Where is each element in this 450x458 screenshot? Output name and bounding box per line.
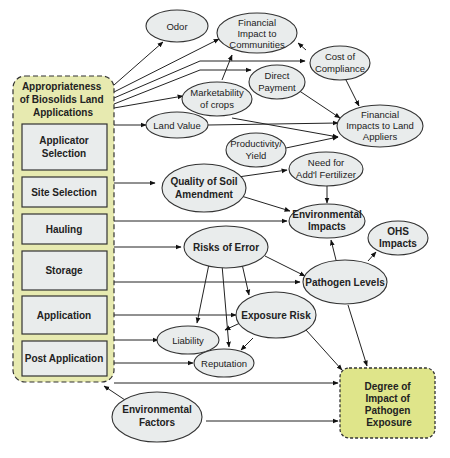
stage-applicator-selection[interactable]: ApplicatorSelection	[22, 124, 107, 170]
node-liability[interactable]: Liability	[157, 326, 219, 354]
node-odor[interactable]: Odor	[146, 10, 208, 42]
node-land-value[interactable]: Land Value	[146, 112, 208, 138]
node-marketability-of-crops[interactable]: Marketabilityof crops	[182, 82, 252, 116]
svg-text:Reputation: Reputation	[201, 358, 247, 369]
node-quality-of-soil-amendment[interactable]: Quality of SoilAmendment	[162, 164, 246, 212]
svg-text:Hauling: Hauling	[46, 224, 83, 235]
node-environmental-impacts[interactable]: EnvironmentalImpacts	[289, 204, 365, 238]
svg-text:Pathogen Levels: Pathogen Levels	[305, 277, 385, 288]
node-need-for-fertilizer[interactable]: Need forAdd'l Fertilizer	[289, 152, 363, 186]
svg-text:Post Application: Post Application	[25, 353, 104, 364]
node-ohs-impacts[interactable]: OHSImpacts	[368, 221, 428, 255]
node-productivity-yield[interactable]: Productivity/Yield	[226, 133, 286, 167]
node-direct-payment[interactable]: DirectPayment	[249, 65, 305, 99]
node-cost-of-compliance[interactable]: Cost ofCompliance	[310, 46, 370, 80]
stage-application[interactable]: Application	[22, 296, 107, 334]
stage-post-application[interactable]: Post Application	[22, 341, 107, 376]
biosolids-causal-diagram: Appropriateness of Biosolids Land Applic…	[0, 0, 450, 458]
node-financial-impacts-land-appliers[interactable]: FinancialImpacts to LandAppliers	[337, 105, 423, 147]
svg-text:Liability: Liability	[172, 335, 204, 346]
svg-text:Application: Application	[37, 310, 91, 321]
node-risks-of-error[interactable]: Risks of Error	[184, 226, 268, 268]
svg-text:Land Value: Land Value	[153, 120, 200, 131]
node-pathogen-levels[interactable]: Pathogen Levels	[303, 260, 387, 304]
svg-text:Site Selection: Site Selection	[31, 187, 97, 198]
svg-text:Degree of Impact of: Degree of Impact of Pathogen Exposure	[365, 381, 414, 428]
node-environmental-factors[interactable]: EnvironmentalFactors	[112, 392, 202, 442]
stage-site-selection[interactable]: Site Selection	[22, 177, 107, 207]
appropriateness-container: Appropriateness of Biosolids Land Applic…	[13, 76, 114, 382]
svg-text:Exposure Risk: Exposure Risk	[241, 310, 311, 321]
outcome-degree-of-impact[interactable]: Degree of Impact of Pathogen Exposure	[340, 368, 435, 438]
node-exposure-risk[interactable]: Exposure Risk	[236, 292, 316, 338]
node-reputation[interactable]: Reputation	[194, 349, 254, 377]
stage-hauling[interactable]: Hauling	[22, 214, 107, 244]
svg-text:Storage: Storage	[45, 265, 83, 276]
svg-text:Risks of Error: Risks of Error	[193, 242, 259, 253]
node-financial-impact-communities[interactable]: FinancialImpact toCommunities	[217, 13, 297, 53]
svg-text:Odor: Odor	[166, 21, 187, 32]
stage-storage[interactable]: Storage	[22, 251, 107, 290]
